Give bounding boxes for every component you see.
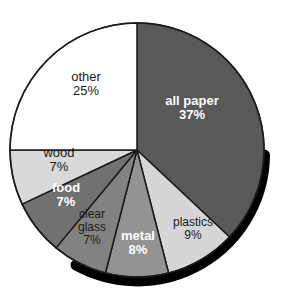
pie-chart-graphic	[0, 0, 281, 295]
pie-chart-figure: all paper 37% other 25% wood 7% food 7% …	[0, 0, 281, 295]
pie-slice-other[interactable]	[10, 23, 137, 150]
pie-slice-group	[10, 23, 264, 277]
